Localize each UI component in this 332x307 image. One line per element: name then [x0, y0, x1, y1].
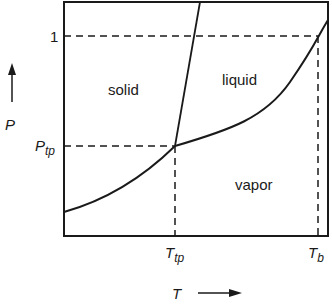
sublimation-curve: [64, 146, 175, 212]
t-axis-arrow-icon: [229, 289, 242, 297]
y-tick-ptp-sub: tp: [45, 144, 55, 158]
p-axis-arrow-icon: [8, 63, 16, 75]
region-vapor-label: vapor: [235, 177, 273, 192]
plot-frame: [64, 2, 328, 236]
y-tick-1-label: 1: [50, 28, 58, 45]
x-tick-tb-main: T: [308, 244, 317, 261]
x-axis-label: T: [172, 286, 181, 301]
y-tick-1: 1: [50, 29, 58, 44]
x-tick-ttp-main: T: [165, 244, 174, 261]
y-tick-ptp-main: P: [35, 137, 45, 154]
y-axis-label: P: [5, 117, 15, 132]
x-tick-tb-sub: b: [317, 251, 324, 265]
x-tick-ttp: Ttp: [165, 245, 184, 260]
region-solid-label: solid: [108, 82, 139, 97]
x-tick-tb: Tb: [308, 245, 324, 260]
region-liquid-label: liquid: [222, 72, 257, 87]
melting-line: [175, 2, 200, 146]
x-tick-ttp-sub: tp: [174, 251, 184, 265]
y-tick-ptp: Ptp: [35, 138, 55, 153]
